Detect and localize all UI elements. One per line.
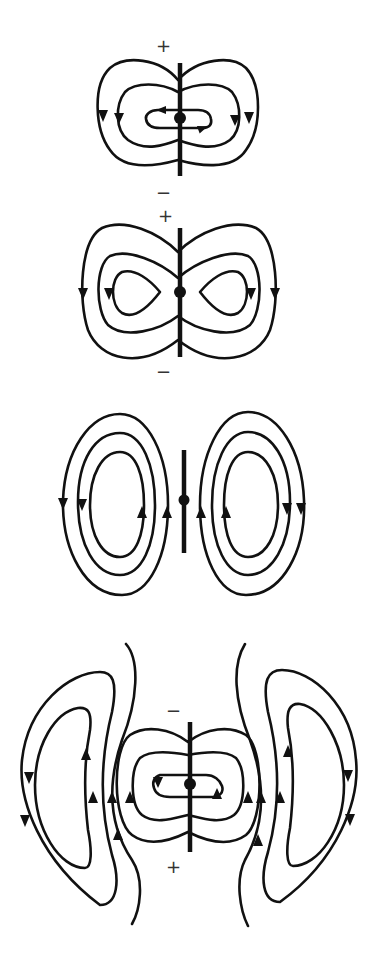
negative-charge-label: − (166, 700, 181, 721)
arrow-down-icon (58, 498, 68, 510)
field-line-right-outer-loop (264, 670, 357, 902)
arrow-down-icon (114, 113, 124, 124)
arrow-up-icon (81, 748, 91, 760)
arrow-up-icon (221, 506, 231, 518)
dipole-radiation-figure: + − + − (0, 0, 378, 971)
dipole-center (174, 112, 186, 124)
field-lines-diagram: + − + − (0, 0, 378, 971)
panel-phase-4: − + (20, 644, 356, 926)
dipole-center (184, 778, 196, 790)
arrow-down-icon (78, 288, 88, 300)
arrow-up-icon (137, 506, 147, 518)
field-line-right-inner (224, 452, 278, 557)
arrow-down-icon (270, 288, 280, 300)
arrow-down-icon (244, 112, 254, 124)
panel-phase-1: + − (98, 35, 258, 203)
arrow-up-icon (113, 828, 123, 840)
positive-charge-label: + (166, 856, 181, 877)
negative-charge-label: − (156, 361, 171, 382)
field-line-left-inner (90, 452, 144, 557)
field-line-inner-left (113, 271, 160, 315)
dipole-center (174, 286, 186, 298)
arrow-left-icon (156, 106, 166, 114)
positive-charge-label: + (156, 35, 171, 56)
arrow-up-icon (88, 791, 98, 803)
arrow-up-icon (162, 506, 172, 518)
arrow-up-icon (256, 791, 266, 803)
panel-phase-3 (58, 412, 306, 595)
positive-charge-label: + (158, 205, 173, 226)
negative-charge-label: − (156, 182, 171, 203)
field-line-right-open (236, 644, 260, 926)
arrow-down-icon (20, 815, 30, 827)
arrow-down-icon (24, 772, 34, 784)
field-line-inner-right (200, 271, 247, 315)
panel-phase-2: + − (78, 205, 280, 382)
arrow-up-icon (243, 791, 253, 803)
arrow-up-icon (107, 791, 117, 803)
dipole-center (179, 495, 190, 506)
arrow-up-icon (196, 506, 206, 518)
